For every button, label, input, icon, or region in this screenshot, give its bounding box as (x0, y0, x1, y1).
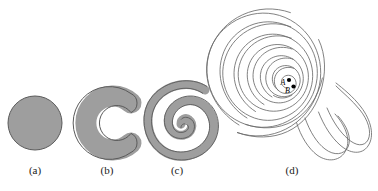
shape-thick-spiral (148, 84, 214, 156)
caption-a: (a) (12, 164, 58, 176)
point-b-label: B (285, 86, 290, 95)
caption-c: (c) (154, 164, 200, 176)
disk-body (8, 96, 62, 150)
spiral-turn-5 (223, 24, 313, 121)
point-a-dot (287, 78, 291, 82)
caption-b: (b) (84, 164, 130, 176)
shape-filled-disk (8, 96, 62, 150)
c-shape-band-fill (86, 96, 131, 150)
spiral-tail-hook-outer (327, 86, 370, 145)
shape-c-shape (86, 96, 131, 150)
figure-graphics: A B (0, 0, 378, 191)
spiral-turn-3 (253, 47, 303, 103)
spiral-outer-arm (237, 93, 320, 137)
spiral-tail-hook-inner (319, 83, 372, 152)
caption-d: (d) (269, 164, 315, 176)
spiral-tail-loop-outer (305, 116, 349, 154)
shape-thin-outline-spiral (207, 9, 372, 160)
spiral-turn-7 (207, 13, 321, 136)
thick-spiral-band (148, 84, 214, 156)
spiral-points: A B (280, 78, 296, 95)
figure-panel: A B (a) (b) (c) (d) (0, 0, 378, 191)
point-b-dot (291, 84, 295, 88)
